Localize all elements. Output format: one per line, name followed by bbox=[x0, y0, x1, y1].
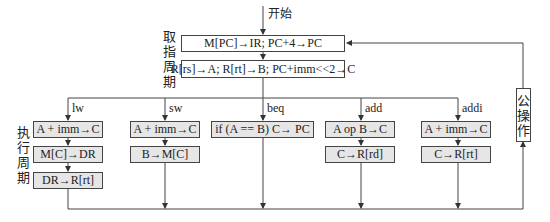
char: 公 bbox=[517, 93, 530, 108]
branch-label-sw: sw bbox=[169, 101, 182, 116]
sw-step-2: B→M[C] bbox=[130, 146, 200, 163]
branch-label-beq: beq bbox=[267, 101, 284, 116]
branch-label-lw: lw bbox=[72, 101, 84, 116]
add-step-2: C→R[rd] bbox=[325, 146, 395, 163]
char: 周 bbox=[16, 155, 30, 170]
branch-label-add: add bbox=[365, 101, 382, 116]
char: 取 bbox=[162, 29, 176, 44]
common-operation-box: 公 操 作 bbox=[516, 88, 531, 142]
char: 期 bbox=[16, 170, 30, 185]
char: 指 bbox=[162, 44, 176, 59]
lw-step-2: M[C]→DR bbox=[33, 146, 103, 163]
beq-step-1: if (A == B) C→ PC bbox=[211, 121, 314, 138]
fetch-box: M[PC]→IR; PC+4→PC bbox=[181, 35, 345, 52]
decode-box: R[rs]→A; R[rt]→B; PC+imm<<2→C bbox=[181, 60, 345, 78]
char: 执 bbox=[16, 125, 30, 140]
char: 作 bbox=[517, 123, 530, 138]
start-label: 开始 bbox=[268, 4, 292, 21]
branch-label-addi: addi bbox=[462, 101, 483, 116]
char: 操 bbox=[517, 108, 530, 123]
exec-cycle-label: 执 行 周 期 bbox=[16, 125, 30, 185]
add-step-1: A op B→C bbox=[325, 121, 395, 138]
char: 行 bbox=[16, 140, 30, 155]
addi-step-1: A + imm→C bbox=[421, 121, 491, 138]
lw-step-1: A + imm→C bbox=[33, 121, 103, 138]
addi-step-2: C→R[rt] bbox=[421, 146, 491, 163]
sw-step-1: A + imm→C bbox=[130, 121, 200, 138]
lw-step-3: DR→R[rt] bbox=[33, 172, 103, 189]
fetch-cycle-label: 取 指 周 期 bbox=[162, 29, 176, 89]
